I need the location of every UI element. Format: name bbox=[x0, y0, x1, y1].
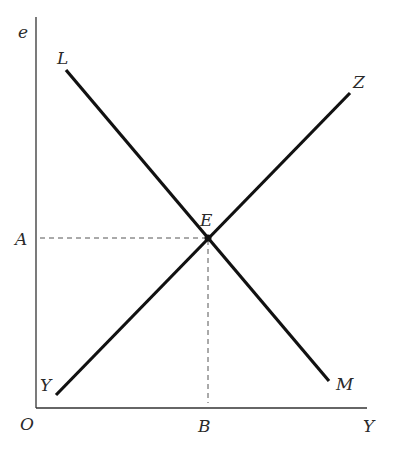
line-YZ-start-label: Y bbox=[40, 375, 53, 395]
x-axis-label: Y bbox=[363, 416, 376, 436]
origin-label: O bbox=[20, 414, 34, 434]
line-LM-end-label: M bbox=[335, 374, 354, 394]
line-LM bbox=[66, 70, 329, 381]
line-YZ-end-label: Z bbox=[352, 72, 366, 92]
projection-y-label: A bbox=[13, 229, 27, 249]
equilibrium-point bbox=[205, 235, 212, 242]
line-LM-start-label: L bbox=[56, 48, 68, 68]
economics-diagram: e L Z E A Y M O B Y bbox=[0, 0, 399, 454]
y-axis-label: e bbox=[18, 22, 28, 42]
projection-x-label: B bbox=[197, 416, 211, 436]
line-YZ bbox=[56, 93, 350, 395]
intersection-label: E bbox=[199, 210, 213, 230]
